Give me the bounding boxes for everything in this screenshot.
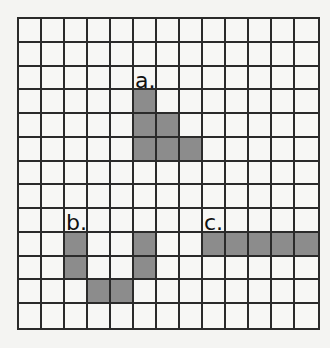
grid-cell <box>226 43 249 67</box>
grid-cell <box>249 67 272 91</box>
grid-cell <box>203 67 226 91</box>
grid-cell <box>295 304 318 328</box>
grid-cell <box>226 19 249 43</box>
grid-cell <box>272 90 295 114</box>
grid-cell <box>203 280 226 304</box>
grid-cell <box>111 114 134 138</box>
grid-cell <box>180 233 203 257</box>
grid-cell <box>226 185 249 209</box>
grid-cell <box>88 67 111 91</box>
grid-cell <box>180 280 203 304</box>
grid-cell <box>111 43 134 67</box>
grid-cell <box>157 233 180 257</box>
grid-cell <box>42 280 65 304</box>
grid-cell <box>272 304 295 328</box>
grid-cell <box>249 162 272 186</box>
grid-cell <box>180 114 203 138</box>
grid-cell <box>88 233 111 257</box>
grid-cell <box>134 209 157 233</box>
grid-cell <box>88 138 111 162</box>
shaded-cell <box>134 138 157 162</box>
grid-cell <box>226 67 249 91</box>
grid-cell <box>157 162 180 186</box>
grid-cell <box>65 280 88 304</box>
grid-cell <box>88 19 111 43</box>
grid-cell <box>157 67 180 91</box>
grid-cell <box>19 114 42 138</box>
grid-cell <box>42 67 65 91</box>
grid-cell <box>42 138 65 162</box>
grid-cell <box>19 138 42 162</box>
grid-cell <box>42 209 65 233</box>
grid-cell <box>180 19 203 43</box>
grid-cell <box>157 209 180 233</box>
grid-cell <box>272 185 295 209</box>
grid-cell <box>42 90 65 114</box>
figure-label-b: b. <box>66 212 87 234</box>
grid-cell <box>203 162 226 186</box>
grid-cell <box>203 43 226 67</box>
grid-cell <box>111 209 134 233</box>
grid-cell <box>203 304 226 328</box>
grid-cell <box>157 280 180 304</box>
grid-cell <box>157 43 180 67</box>
grid-cell <box>180 162 203 186</box>
grid-cell <box>65 43 88 67</box>
grid-cell <box>249 209 272 233</box>
grid-cell <box>65 67 88 91</box>
grid-cell <box>226 114 249 138</box>
grid-cell <box>42 304 65 328</box>
shaded-cell <box>157 138 180 162</box>
grid-cell <box>295 138 318 162</box>
grid-cell <box>272 19 295 43</box>
grid-cell <box>180 43 203 67</box>
grid-cell <box>19 304 42 328</box>
shaded-cell <box>65 233 88 257</box>
grid-cell <box>157 19 180 43</box>
grid-cell <box>111 162 134 186</box>
grid-cell <box>88 304 111 328</box>
grid-cell <box>134 280 157 304</box>
grid-cell <box>295 257 318 281</box>
grid-cell <box>65 138 88 162</box>
grid-cell <box>88 114 111 138</box>
shaded-cell <box>134 233 157 257</box>
grid-cell <box>65 185 88 209</box>
grid-cell <box>157 304 180 328</box>
grid-cell <box>226 138 249 162</box>
grid-cell <box>249 138 272 162</box>
grid-cell <box>272 138 295 162</box>
grid-cell <box>203 138 226 162</box>
grid-cell <box>180 304 203 328</box>
grid-cell <box>19 185 42 209</box>
grid-cell <box>157 257 180 281</box>
grid-cell <box>134 43 157 67</box>
grid-cell <box>19 67 42 91</box>
grid-cell <box>272 67 295 91</box>
grid-cell <box>226 209 249 233</box>
grid-cell <box>249 304 272 328</box>
grid-cell <box>272 162 295 186</box>
grid-cell <box>180 257 203 281</box>
grid-cell <box>88 162 111 186</box>
grid-cell <box>203 185 226 209</box>
grid-cell <box>157 185 180 209</box>
shaded-cell <box>111 280 134 304</box>
figure-label-a: a. <box>135 70 155 92</box>
grid-cell <box>180 185 203 209</box>
grid-cell <box>65 90 88 114</box>
shaded-cell <box>249 233 272 257</box>
grid-cell <box>226 257 249 281</box>
grid-cell <box>88 185 111 209</box>
grid-cell <box>111 257 134 281</box>
grid-cell <box>111 67 134 91</box>
grid-cell <box>180 90 203 114</box>
grid-cell <box>19 209 42 233</box>
grid-cell <box>295 162 318 186</box>
shaded-cell <box>295 233 318 257</box>
grid-cell <box>249 19 272 43</box>
grid-cell <box>295 90 318 114</box>
grid-cell <box>295 67 318 91</box>
grid-cell <box>295 19 318 43</box>
grid-cell <box>19 90 42 114</box>
